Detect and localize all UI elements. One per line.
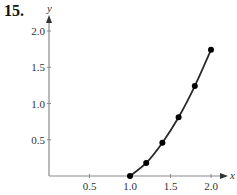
data-point: [143, 160, 149, 166]
x-tick-label: 0.5: [83, 180, 97, 192]
data-point: [192, 83, 198, 89]
x-axis-arrow-icon: [220, 173, 228, 179]
data-point: [127, 173, 133, 179]
x-tick-label: 2.0: [204, 180, 218, 192]
y-tick-label: 1.5: [31, 61, 45, 73]
y-axis-label: y: [46, 2, 52, 14]
x-axis-label: x: [229, 169, 235, 181]
data-point: [159, 140, 165, 146]
x-tick-label: 1.5: [164, 180, 178, 192]
data-point: [208, 47, 214, 53]
line-chart: xy0.51.01.52.00.51.01.52.0: [0, 0, 237, 195]
data-point: [176, 114, 182, 120]
x-tick-label: 1.0: [123, 180, 137, 192]
y-tick-label: 0.5: [31, 134, 45, 146]
y-axis-arrow-icon: [46, 15, 52, 23]
axes: xy0.51.01.52.00.51.01.52.0: [31, 2, 235, 192]
plot-area: [127, 47, 214, 179]
y-tick-label: 2.0: [31, 25, 45, 37]
y-tick-label: 1.0: [31, 98, 45, 110]
data-curve: [130, 50, 211, 176]
